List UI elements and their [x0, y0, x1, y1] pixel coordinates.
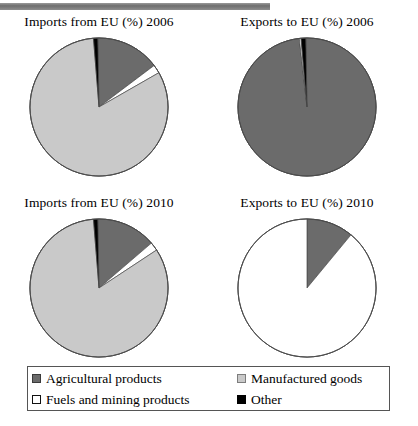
chart-title-imports-2006: Imports from EU (%) 2006 [0, 14, 199, 30]
square-swatch-icon [237, 395, 246, 404]
square-swatch-icon [237, 374, 246, 383]
top-rule [0, 3, 270, 10]
pie-svg-imports-2006 [28, 36, 170, 178]
legend-item-other: Other [237, 389, 389, 410]
legend-label-other: Other [251, 393, 282, 407]
legend-item-fuels-and-mining-products: Fuels and mining products [32, 389, 237, 410]
chart-title-exports-2006: Exports to EU (%) 2006 [207, 14, 407, 30]
square-swatch-icon [32, 395, 41, 404]
legend: Agricultural products Manufactured goods… [27, 366, 390, 411]
legend-label-fuels-and-mining-products: Fuels and mining products [46, 393, 190, 407]
chart-imports-2010: Imports from EU (%) 2010 [0, 195, 199, 375]
legend-item-agricultural-products: Agricultural products [32, 368, 237, 389]
chart-exports-2010: Exports to EU (%) 2010 [207, 195, 407, 375]
square-swatch-icon [32, 374, 41, 383]
legend-item-manufactured-goods: Manufactured goods [237, 368, 389, 389]
chart-title-imports-2010: Imports from EU (%) 2010 [0, 195, 199, 211]
chart-exports-2006: Exports to EU (%) 2006 [207, 14, 407, 194]
pie-imports-2010 [28, 217, 170, 359]
pie-exports-2010 [236, 217, 378, 359]
pie-slice-fuels [238, 219, 376, 357]
pie-svg-imports-2010 [28, 217, 170, 359]
pie-exports-2006 [236, 36, 378, 178]
chart-title-exports-2010: Exports to EU (%) 2010 [207, 195, 407, 211]
legend-label-manufactured-goods: Manufactured goods [251, 372, 362, 386]
pie-svg-exports-2006 [236, 36, 378, 178]
chart-imports-2006: Imports from EU (%) 2006 [0, 14, 199, 194]
legend-label-agricultural-products: Agricultural products [46, 372, 162, 386]
pie-imports-2006 [28, 36, 170, 178]
pie-svg-exports-2010 [236, 217, 378, 359]
